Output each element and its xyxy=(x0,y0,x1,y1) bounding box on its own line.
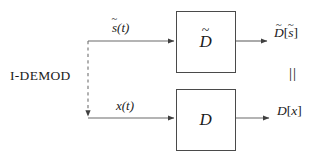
s-letter: s xyxy=(112,20,117,35)
bracket-close: ] xyxy=(297,103,302,118)
equality-symbol: || xyxy=(289,66,297,81)
bottom-operator-block: D xyxy=(176,89,236,151)
top-operator-block: ~ D xyxy=(176,11,236,73)
output-operator-d-letter: D xyxy=(277,103,287,118)
operator-d-letter: D xyxy=(200,32,213,51)
operator-d-tilde-symbol: ~ D xyxy=(200,33,213,50)
output-arg-s-letter: s xyxy=(288,25,293,40)
x-argument: (t) xyxy=(122,98,134,113)
i-demod-label: I-DEMOD xyxy=(10,69,71,83)
operator-d-symbol: D xyxy=(200,111,213,128)
bracket-close: ] xyxy=(294,25,299,40)
output-operator-d-letter: D xyxy=(274,25,284,40)
input-signal-s-tilde-label: ~ s (t) xyxy=(112,21,129,34)
input-signal-x-label: x(t) xyxy=(116,99,134,112)
output-arg-s-tilde-symbol: ~s xyxy=(288,26,293,40)
output-bottom-label: D[x] xyxy=(277,104,302,118)
s-argument: (t) xyxy=(117,20,129,35)
output-operator-d-tilde-symbol: ~ D xyxy=(274,26,284,40)
diagram-canvas: ~ D D I-DEMOD ~ s (t) x(t) ~ D [~s] D[x]… xyxy=(0,0,332,158)
s-tilde-symbol: ~ s xyxy=(112,21,117,34)
output-top-label: ~ D [~s] xyxy=(274,26,298,40)
